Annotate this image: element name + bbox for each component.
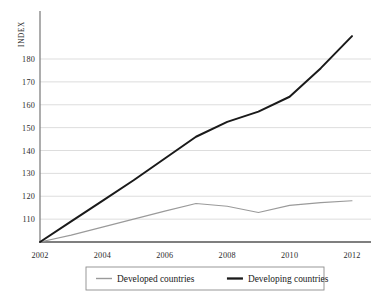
y-tick-label: 180	[22, 55, 35, 64]
y-tick-label: 120	[22, 192, 35, 201]
chart-background	[0, 0, 387, 300]
chart-legend: Developed countriesDeveloping countries	[86, 267, 329, 290]
y-tick-label: 170	[22, 78, 35, 87]
y-tick-label: 130	[22, 169, 35, 178]
x-tick-label: 2008	[219, 251, 236, 260]
y-axis-title: INDEX	[18, 21, 26, 47]
x-tick-label: 2006	[156, 251, 173, 260]
y-tick-label: 110	[22, 215, 35, 224]
x-tick-label: 2012	[343, 251, 360, 260]
x-tick-label: 2002	[31, 251, 48, 260]
y-tick-label: 160	[22, 101, 35, 110]
x-tick-label: 2004	[94, 251, 111, 260]
y-axis-title-text: INDEX	[18, 21, 26, 47]
y-tick-label: 150	[22, 124, 35, 133]
y-tick-label: 140	[22, 147, 35, 156]
legend-label-1: Developing countries	[248, 274, 329, 284]
chart-container: 110120130140150160170180 200220042006200…	[0, 0, 387, 300]
line-chart: 110120130140150160170180 200220042006200…	[0, 0, 387, 300]
x-tick-label: 2010	[281, 251, 298, 260]
legend-label-0: Developed countries	[117, 274, 195, 284]
